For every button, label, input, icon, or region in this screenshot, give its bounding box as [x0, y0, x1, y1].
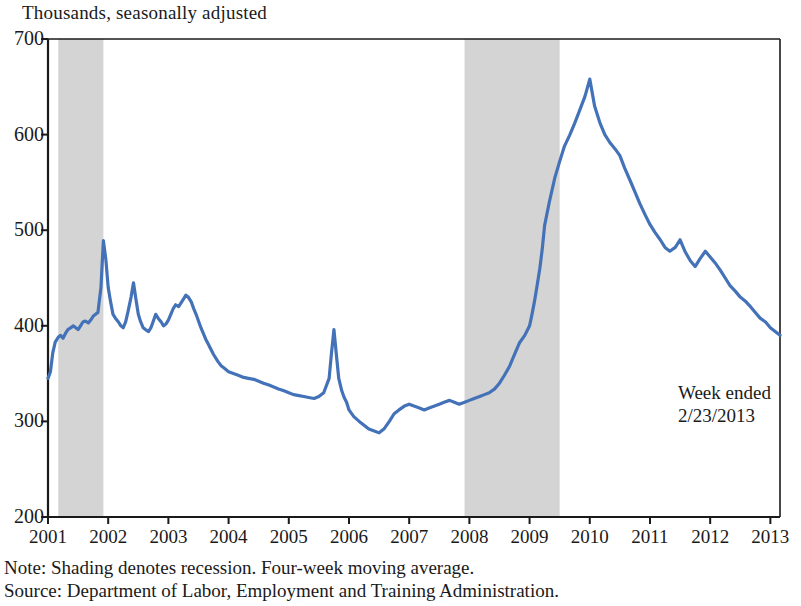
recession-band [465, 39, 560, 517]
x-axis-tick-label: 2002 [77, 527, 139, 547]
y-axis-tick-label: 700 [0, 28, 44, 48]
x-axis-tick-label: 2001 [17, 527, 79, 547]
x-axis-tick-label: 2013 [739, 527, 801, 547]
line-chart-svg [0, 0, 801, 540]
x-axis-tick-label: 2008 [438, 527, 500, 547]
x-axis-tick-label: 2005 [258, 527, 320, 547]
data-series-line [48, 79, 780, 433]
x-axis-tick-label: 2009 [499, 527, 561, 547]
footnote-source: Source: Department of Labor, Employment … [4, 580, 559, 602]
footnote-note: Note: Shading denotes recession. Four-we… [4, 557, 474, 579]
x-axis-tick-label: 2003 [137, 527, 199, 547]
x-axis-tick-label: 2011 [619, 527, 681, 547]
x-axis-tick-label: 2006 [318, 527, 380, 547]
y-axis-tick-label: 600 [0, 124, 44, 144]
y-axis-tick-label: 400 [0, 315, 44, 335]
x-axis-tick-label: 2010 [559, 527, 621, 547]
annotation-week-ended-label: Week ended [678, 381, 771, 404]
y-axis-tick-label: 500 [0, 219, 44, 239]
recession-band [58, 39, 103, 517]
x-axis-tick-label: 2004 [198, 527, 260, 547]
annotation-week-ended-date: 2/23/2013 [678, 404, 755, 427]
x-axis-tick-label: 2012 [679, 527, 741, 547]
chart-figure: Thousands, seasonally adjusted 200300400… [0, 0, 801, 606]
y-axis-tick-label: 300 [0, 410, 44, 430]
x-axis-tick-label: 2007 [378, 527, 440, 547]
y-axis-tick-label: 200 [0, 506, 44, 526]
plot-area: 2003004005006007002001200220032004200520… [0, 0, 801, 540]
